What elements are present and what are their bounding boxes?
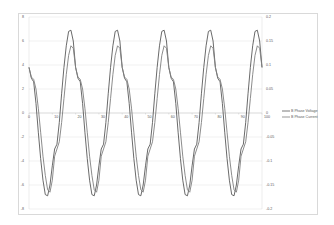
- x-tick-label: 80: [217, 115, 221, 119]
- left-tick-label: 0: [22, 111, 24, 115]
- right-tick-label: 0.15: [266, 39, 273, 43]
- left-tick-label: 6: [22, 39, 24, 43]
- left-tick-label: 8: [22, 15, 24, 19]
- x-tick-label: 50: [148, 115, 152, 119]
- left-tick-label: -6: [21, 183, 24, 187]
- x-tick-label: 70: [194, 115, 198, 119]
- right-tick-label: -0.05: [266, 135, 274, 139]
- right-tick-label: -0.1: [266, 159, 272, 163]
- right-y-axis: 0.20.150.10.050-0.05-0.1-0.15-0.2: [266, 15, 274, 211]
- left-tick-label: 4: [22, 63, 24, 67]
- x-tick-label: 100: [264, 115, 270, 119]
- x-tick-label: 30: [101, 115, 105, 119]
- right-tick-label: 0.1: [266, 63, 271, 67]
- left-tick-label: -2: [21, 135, 24, 139]
- right-tick-label: -0.15: [266, 183, 274, 187]
- right-tick-label: 0.05: [266, 87, 273, 91]
- x-tick-label: 20: [78, 115, 82, 119]
- legend: B Phase Voltage B Phase Current: [282, 109, 318, 119]
- x-axis: 0102030405060708090100: [28, 113, 270, 119]
- x-tick-label: 40: [124, 115, 128, 119]
- left-y-axis: 86420-2-4-6-8: [21, 15, 24, 211]
- left-tick-label: -8: [21, 207, 24, 211]
- x-tick-label: 0: [28, 115, 30, 119]
- x-tick-label: 10: [54, 115, 58, 119]
- left-tick-label: 2: [22, 87, 24, 91]
- right-tick-label: 0.2: [266, 15, 271, 19]
- legend-label-current: B Phase Current: [291, 115, 318, 119]
- x-tick-label: 90: [241, 115, 245, 119]
- legend-label-voltage: B Phase Voltage: [291, 109, 318, 113]
- left-tick-label: -4: [21, 159, 24, 163]
- x-tick-label: 60: [171, 115, 175, 119]
- right-tick-label: -0.2: [266, 207, 272, 211]
- line-chart: 86420-2-4-6-8 0.20.150.10.050-0.05-0.1-0…: [0, 0, 334, 225]
